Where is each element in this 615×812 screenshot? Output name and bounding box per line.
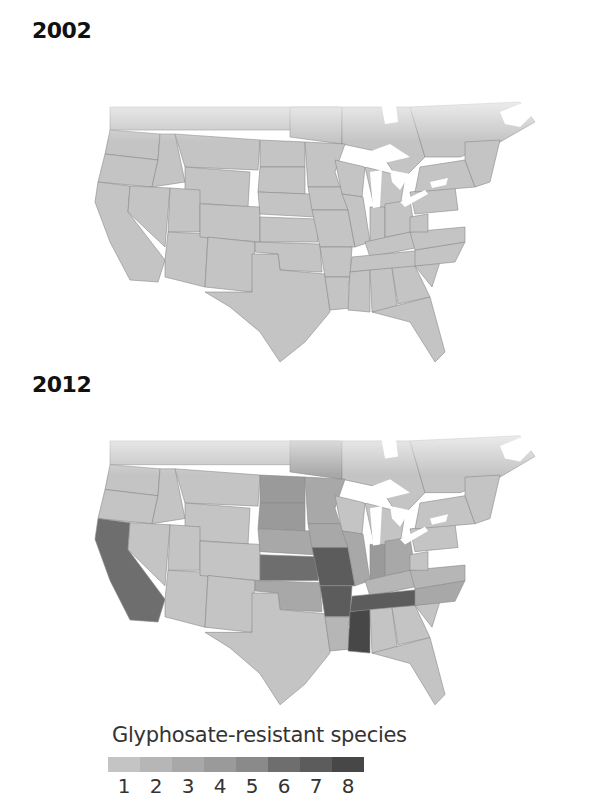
legend-title: Glyphosate-resistant species (112, 723, 407, 747)
region-arkansas-2012 (320, 586, 352, 617)
region-utah-2002 (168, 188, 200, 232)
legend-color-bar (108, 757, 407, 772)
region-mississippi-2012 (348, 610, 370, 653)
region-arizona-2002 (165, 232, 208, 287)
legend-swatch-8 (332, 757, 364, 772)
region-new-mexico-2002 (205, 237, 255, 292)
region-west-virginia-2002 (410, 214, 428, 232)
region-south-dakota-2002 (258, 167, 305, 194)
legend-swatch-3 (172, 757, 204, 772)
region-oregon-2002 (98, 154, 158, 187)
region-montana-2012 (175, 469, 260, 506)
map-2012-svg (80, 415, 550, 710)
region-new-mexico-2012 (205, 575, 255, 632)
legend-swatch-1 (108, 757, 140, 772)
region-indiana-2002 (370, 207, 385, 242)
region-kansas-2012 (260, 555, 318, 581)
region-montana-2002 (175, 134, 260, 170)
legend-tick: 8 (332, 774, 364, 798)
map-2002 (80, 82, 550, 367)
region-west-virginia-2012 (410, 552, 428, 571)
region-nebraska-2002 (258, 192, 315, 217)
region-north-dakota-2012 (260, 475, 305, 503)
region-utah-2012 (168, 525, 200, 571)
legend-swatch-2 (140, 757, 172, 772)
region-indiana-2012 (370, 544, 385, 580)
legend-ticks: 12345678 (108, 774, 407, 798)
region-colorado-2002 (200, 204, 260, 242)
region-missouri-2002 (312, 210, 355, 247)
regions-2012 (95, 431, 540, 705)
legend-tick: 1 (108, 774, 140, 798)
region-new-york-2012 (415, 496, 475, 529)
lake-1-2002 (370, 170, 382, 208)
region-arizona-2012 (165, 570, 208, 627)
lake-1-2012 (370, 506, 382, 545)
region-new-york-2002 (415, 160, 475, 192)
legend-tick: 6 (268, 774, 300, 798)
region-kansas-2002 (260, 217, 318, 242)
map-2012 (80, 415, 550, 710)
legend-tick: 3 (172, 774, 204, 798)
region-missouri-2012 (312, 547, 355, 585)
legend-tick: 7 (300, 774, 332, 798)
map-2002-svg (80, 82, 550, 367)
legend-tick: 5 (236, 774, 268, 798)
region-oregon-2012 (98, 490, 158, 524)
legend-tick: 2 (140, 774, 172, 798)
year-label-2012: 2012 (32, 372, 91, 397)
region-colorado-2012 (200, 541, 260, 580)
region-arkansas-2002 (320, 247, 352, 277)
legend-swatch-6 (268, 757, 300, 772)
region-south-dakota-2012 (258, 503, 305, 531)
legend-swatch-7 (300, 757, 332, 772)
legend-tick: 4 (204, 774, 236, 798)
region-north-dakota-2002 (260, 140, 305, 167)
legend-swatch-5 (236, 757, 268, 772)
year-label-2002: 2002 (32, 18, 91, 43)
region-manitoba-2012 (290, 441, 342, 479)
region-nebraska-2012 (258, 529, 315, 555)
region-mississippi-2002 (348, 270, 370, 312)
legend-swatch-4 (204, 757, 236, 772)
region-manitoba-2002 (290, 107, 342, 144)
regions-2002 (95, 97, 540, 362)
legend: Glyphosate-resistant species 12345678 (106, 723, 407, 798)
